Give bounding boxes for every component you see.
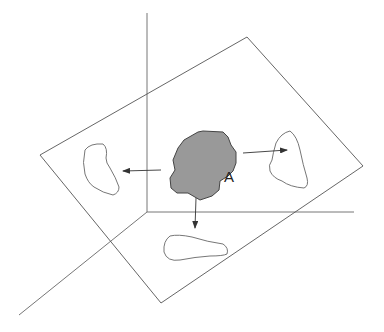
projection-diagram [0, 0, 384, 332]
diagram-canvas: A [0, 0, 384, 332]
object-a [170, 131, 236, 200]
right-projection-shape [269, 131, 307, 188]
left-projection-shape [84, 144, 120, 195]
arrow-left [123, 170, 161, 171]
bottom-projection-shape [164, 235, 228, 260]
arrow-right [243, 150, 287, 153]
depth-axis [19, 212, 147, 315]
arrow-down [195, 198, 196, 228]
object-a-label: A [224, 168, 234, 185]
